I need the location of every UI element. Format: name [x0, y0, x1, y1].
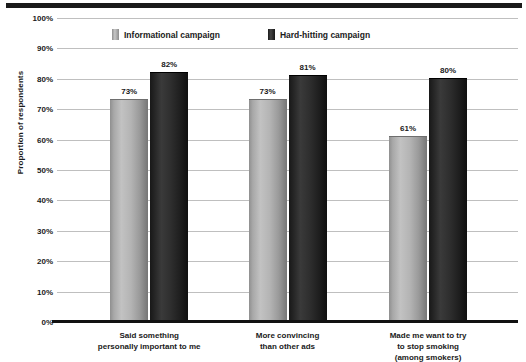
y-axis-tick-label: 70%	[37, 105, 53, 114]
bar-value-label: 80%	[440, 66, 456, 75]
bar-hard-hitting	[429, 78, 467, 322]
gridline: 100%	[57, 18, 518, 19]
y-axis-tick-label: 50%	[37, 166, 53, 175]
bar-value-label: 73%	[121, 87, 137, 96]
x-axis-category-label: Made me want to try to stop smoking (amo…	[390, 330, 467, 362]
bar-value-label: 73%	[259, 87, 275, 96]
gridline: 90%	[57, 48, 518, 49]
bar-chart: Proportion of respondents 100%90%80%70%6…	[0, 0, 526, 362]
legend-item-informational: Informational campaign	[112, 29, 220, 40]
bar-informational	[249, 99, 287, 322]
y-axis-tick-label: 90%	[37, 44, 53, 53]
bar-informational	[389, 136, 427, 322]
x-axis-baseline	[52, 320, 518, 323]
y-axis-tick-label: 80%	[37, 74, 53, 83]
legend-label-hard-hitting: Hard-hitting campaign	[280, 30, 370, 40]
y-axis-tick-label: 100%	[33, 14, 53, 23]
y-axis-tick-label: 10%	[37, 287, 53, 296]
chart-legend: Informational campaign Hard-hitting camp…	[112, 29, 370, 40]
legend-item-hard-hitting: Hard-hitting campaign	[268, 29, 370, 40]
bar-hard-hitting	[150, 72, 188, 322]
y-axis-tick-label: 20%	[37, 257, 53, 266]
bar-hard-hitting	[289, 75, 327, 322]
legend-label-informational: Informational campaign	[124, 30, 220, 40]
bar-informational	[110, 99, 148, 322]
y-axis-title: Proportion of respondents	[16, 43, 25, 203]
plot-area: 100%90%80%70%60%50%40%30%20%10%0% 73%82%…	[57, 18, 518, 322]
bar-value-label: 81%	[299, 63, 315, 72]
legend-swatch-icon-informational	[112, 29, 119, 40]
bar-value-label: 61%	[400, 124, 416, 133]
y-axis-tick-label: 40%	[37, 196, 53, 205]
y-axis-tick-label: 60%	[37, 135, 53, 144]
y-axis-tick-label: 30%	[37, 226, 53, 235]
x-axis-category-label: More convincing than other ads	[256, 330, 320, 352]
bar-value-label: 82%	[161, 60, 177, 69]
legend-swatch-icon-hard-hitting	[268, 29, 275, 40]
top-rule-divider	[6, 3, 522, 8]
x-axis-category-label: Said something personally important to m…	[98, 330, 201, 352]
